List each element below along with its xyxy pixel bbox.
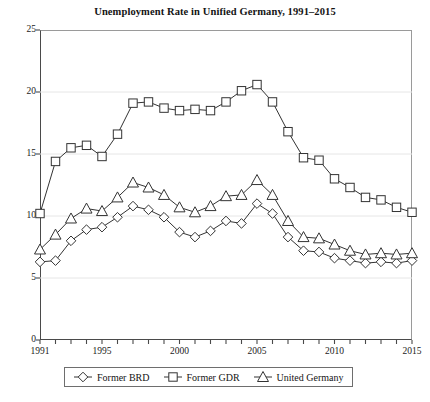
- x-tick-2015: 2015: [403, 346, 422, 356]
- diamond-marker-icon: [73, 371, 93, 383]
- legend-label: Former GDR: [187, 372, 240, 383]
- y-tick-15: 15: [10, 148, 36, 158]
- unemployment-line-chart: Unemployment Rate in Unified Germany, 19…: [0, 0, 430, 402]
- y-tick-0: 0: [10, 334, 36, 344]
- chart-title: Unemployment Rate in Unified Germany, 19…: [0, 6, 430, 17]
- legend-item-united-germany[interactable]: United Germany: [253, 371, 344, 383]
- plot-area: [40, 30, 412, 340]
- x-tick-2005: 2005: [248, 346, 267, 356]
- x-tick-2010: 2010: [325, 346, 344, 356]
- triangle-marker-icon: [253, 371, 273, 383]
- x-tick-1991: 1991: [31, 346, 50, 356]
- chart-legend: Former BRDFormer GDRUnited Germany: [64, 367, 353, 387]
- legend-label: United Germany: [277, 372, 344, 383]
- y-tick-25: 25: [10, 24, 36, 34]
- x-tick-2000: 2000: [170, 346, 189, 356]
- x-tick-1995: 1995: [93, 346, 112, 356]
- y-tick-20: 20: [10, 86, 36, 96]
- x-axis-tick-labels: 199119952000200520102015: [40, 342, 412, 362]
- legend-item-former-gdr[interactable]: Former GDR: [163, 371, 240, 383]
- legend-item-former-brd[interactable]: Former BRD: [73, 371, 150, 383]
- y-tick-10: 10: [10, 210, 36, 220]
- legend-label: Former BRD: [97, 372, 150, 383]
- square-marker-icon: [163, 371, 183, 383]
- y-tick-5: 5: [10, 272, 36, 282]
- y-axis-tick-labels: 0510152025: [4, 30, 36, 340]
